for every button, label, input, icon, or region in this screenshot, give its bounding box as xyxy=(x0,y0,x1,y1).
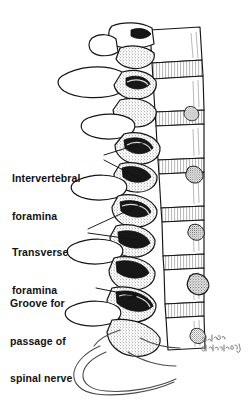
label-line-1: Groove for xyxy=(10,297,72,310)
disc-c5-c6 xyxy=(161,206,204,222)
artist-signature xyxy=(200,331,246,355)
disc-c6-c7 xyxy=(163,254,204,270)
vertebral-body-c3 xyxy=(153,76,204,112)
lamina-c2 xyxy=(116,46,154,69)
lateral-mass-t1 xyxy=(107,319,160,356)
label-line-3: spinal nerve xyxy=(10,372,72,385)
label-line-2: passage of xyxy=(10,335,72,348)
vertebral-body-c4 xyxy=(156,124,204,160)
transverse-process-c6 xyxy=(187,274,209,295)
label-line-1: Transverse xyxy=(12,246,68,259)
vertebral-body-c2 xyxy=(150,27,202,63)
label-line-1: Intervertebral xyxy=(12,172,81,185)
spinous-process-c2 xyxy=(89,35,118,56)
vertebral-bodies-column xyxy=(150,27,205,350)
label-groove-for-passage-of-spinal-nerve: Groove for passage of spinal nerve xyxy=(10,272,72,397)
disc-c7-t1 xyxy=(165,302,204,318)
